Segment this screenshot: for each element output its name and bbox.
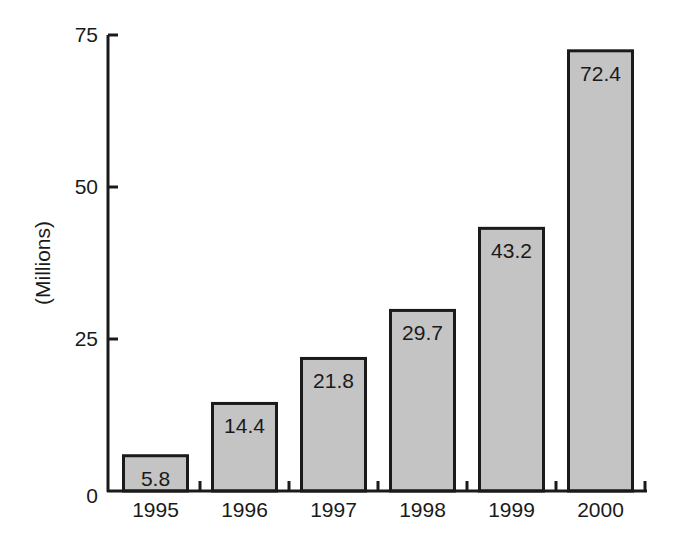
y-tick-label: 75 bbox=[75, 23, 98, 46]
bar-value-label: 21.8 bbox=[313, 369, 354, 392]
bar-value-label: 29.7 bbox=[402, 321, 443, 344]
x-tick-label: 1995 bbox=[132, 498, 179, 521]
x-tick-label: 1997 bbox=[310, 498, 357, 521]
y-tick-label: 0 bbox=[86, 484, 98, 507]
y-axis-label: (Millions) bbox=[31, 221, 54, 305]
axes-group bbox=[107, 35, 647, 492]
x-tick-label: 1999 bbox=[488, 498, 535, 521]
y-tick-label: 25 bbox=[75, 327, 98, 350]
bars-group: 5.814.421.829.743.272.4 bbox=[124, 51, 633, 491]
x-tick-label: 1998 bbox=[399, 498, 446, 521]
x-tick-label: 2000 bbox=[577, 498, 624, 521]
y-ticks-group: 0255075 bbox=[75, 23, 118, 507]
bar-value-label: 72.4 bbox=[580, 62, 621, 85]
bar-2000 bbox=[569, 51, 633, 491]
y-tick-label: 50 bbox=[75, 175, 98, 198]
bar-value-label: 43.2 bbox=[491, 239, 532, 262]
bar-value-label: 5.8 bbox=[141, 467, 170, 490]
bar-value-label: 14.4 bbox=[224, 414, 265, 437]
bar-chart: 5.814.421.829.743.272.4 0255075 19951996… bbox=[0, 0, 679, 546]
bar-1999 bbox=[480, 228, 544, 491]
x-tick-label: 1996 bbox=[221, 498, 268, 521]
